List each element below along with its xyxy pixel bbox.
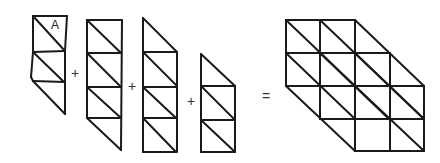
strip-3-edge	[143, 87, 176, 118]
strip-1-edge	[33, 81, 65, 82]
strip-1-edge	[31, 52, 33, 77]
strip-3-edge	[143, 52, 177, 86]
strip-2-edge	[87, 20, 121, 53]
strip-3-edge	[143, 18, 177, 52]
equals-sign: =	[262, 89, 270, 103]
strip-2-edge	[87, 53, 121, 87]
strip-1-edge	[65, 16, 67, 51]
strip-1-edge	[33, 51, 65, 52]
strip-1-edge	[33, 16, 65, 51]
plus-sign-2: +	[128, 79, 136, 93]
strip-1-edge	[33, 52, 64, 82]
plus-sign-3: +	[187, 94, 195, 108]
strip-2-edge	[121, 20, 122, 150]
strip-2-edge	[87, 87, 121, 118]
triangle-addition-diagram	[0, 0, 440, 163]
strip-2-shape	[87, 20, 122, 150]
strip-4-edge	[201, 120, 235, 152]
strip-4-shape	[201, 54, 235, 152]
result-grid-shape	[286, 20, 424, 151]
plus-sign-1: +	[71, 66, 79, 80]
strip-4-edge	[201, 54, 235, 86]
strip-2-edge	[87, 118, 121, 150]
strip-1-shape	[31, 16, 67, 114]
strip-1-edge	[33, 81, 65, 114]
strip-4-edge	[201, 86, 235, 120]
strip-3-shape	[143, 18, 177, 152]
triangle-label-a: A	[51, 19, 59, 31]
strip-3-edge	[143, 118, 176, 152]
